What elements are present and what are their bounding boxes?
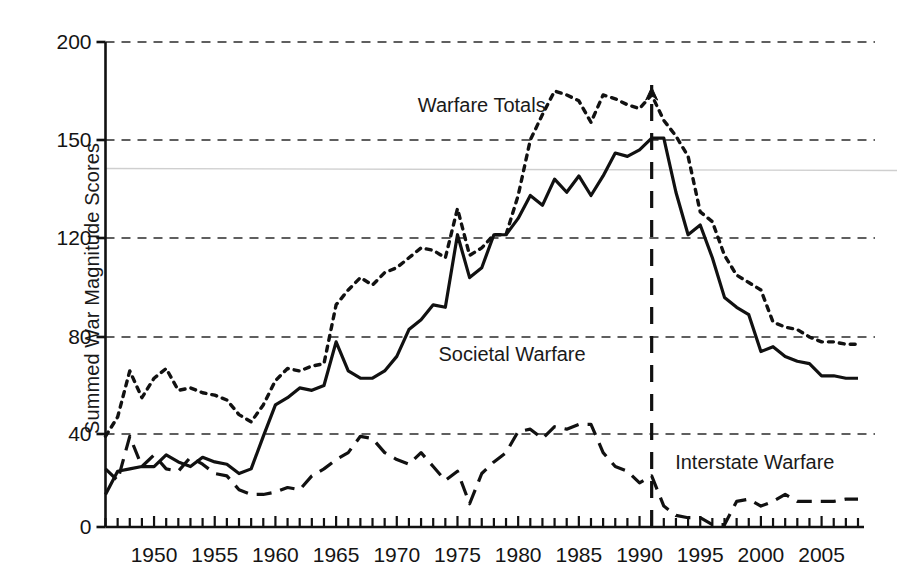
y-tick-label-0: 0 [22,515,92,539]
x-tick-label-1990: 1990 [616,543,663,567]
y-tick-label-150: 150 [22,128,92,152]
chart-figure: Summed War Magnitude Scores 040801201502… [0,0,903,586]
x-tick-label-1970: 1970 [373,543,420,567]
chart-plot-area [0,0,903,586]
x-tick-label-1965: 1965 [313,543,360,567]
series-line-societal_warfare [106,138,859,494]
series-annotation-warfare_totals: Warfare Totals [418,93,546,116]
x-tick-label-1985: 1985 [555,543,602,567]
series-annotation-societal_warfare: Societal Warfare [439,342,586,365]
y-tick-label-120: 120 [22,226,92,250]
x-tick-label-2005: 2005 [798,543,845,567]
x-tick-label-1975: 1975 [434,543,481,567]
y-tick-label-200: 200 [22,30,92,54]
x-tick-label-1960: 1960 [252,543,299,567]
x-tick-label-1980: 1980 [495,543,542,567]
series-line-interstate_warfare [106,424,859,524]
y-tick-label-80: 80 [22,325,92,349]
x-tick-label-1955: 1955 [191,543,238,567]
scan-artifact-line [106,169,898,171]
x-tick-label-1950: 1950 [131,543,178,567]
series-annotation-interstate_warfare: Interstate Warfare [675,450,834,473]
x-tick-label-2000: 2000 [738,543,785,567]
y-tick-label-40: 40 [22,422,92,446]
x-tick-label-1995: 1995 [677,543,724,567]
